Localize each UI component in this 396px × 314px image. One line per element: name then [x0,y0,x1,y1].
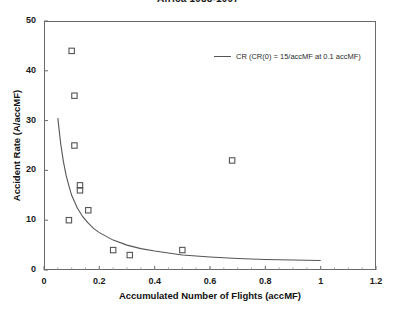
y-tick-label: 50 [6,15,36,25]
y-axis-title: Accident Rate (A/accMF) [11,36,22,256]
trend-curve [58,118,321,260]
x-tick-label: 0.6 [190,276,230,286]
x-tick-label: 0.8 [245,276,285,286]
legend-line-icon [214,56,231,57]
x-tick-label: 1 [301,276,341,286]
chart-figure: Africa 1988-1997 01020304050 00.20.40.60… [0,0,396,314]
x-tick-label: 0.2 [79,276,119,286]
x-tick-label: 0 [24,276,64,286]
legend-label: CR (CR(0) = 15/accMF at 0.1 accMF) [236,52,361,61]
x-axis-title: Accumulated Number of Flights (accMF) [44,290,376,301]
y-tick-label: 0 [6,264,36,274]
x-tick-label: 0.4 [135,276,175,286]
chart-legend: CR (CR(0) = 15/accMF at 0.1 accMF) [214,52,361,61]
plot-canvas [0,0,396,314]
x-tick-label: 1.2 [356,276,396,286]
